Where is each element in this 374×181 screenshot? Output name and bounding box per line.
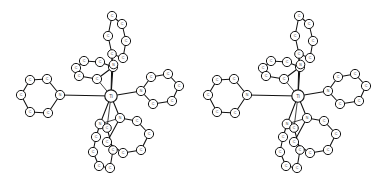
atom-circle-C51	[319, 116, 328, 125]
atom-circle-C13	[16, 90, 25, 99]
atom-C45: C	[290, 31, 299, 40]
atom-circle-C63	[94, 161, 103, 170]
molecular-structure-figure: TiNCCCCCNCCCCCNCCCCCNCCCCCCNCCCCCNCCCCCC…	[0, 0, 374, 181]
atom-circle-C64	[105, 163, 114, 172]
atom-circle-C53	[136, 145, 145, 154]
atom-N1: N	[55, 90, 64, 99]
atom-circle-C45	[290, 31, 299, 40]
atom-C25: C	[335, 99, 344, 108]
atom-circle-N1	[55, 90, 64, 99]
atom-N5: N	[302, 113, 311, 122]
atom-M: Ti	[292, 90, 304, 102]
atom-circle-N1	[242, 90, 251, 99]
atom-C42: C	[308, 36, 317, 45]
atom-N4: N	[296, 60, 305, 69]
atom-circle-C42	[308, 36, 317, 45]
atom-circle-C25	[148, 99, 157, 108]
atom-circle-C55	[102, 137, 111, 146]
atom-circle-C24	[354, 96, 363, 105]
atom-C65: C	[296, 146, 305, 155]
atom-C21: C	[146, 72, 155, 81]
atom-C44: C	[294, 11, 303, 20]
atom-C65: C	[109, 146, 118, 155]
atom-C62: C	[88, 147, 97, 156]
atom-C64: C	[292, 163, 301, 172]
atom-circle-C14	[25, 107, 34, 116]
atom-C55: C	[102, 137, 111, 146]
atom-C24: C	[167, 96, 176, 105]
atom-C41: C	[305, 53, 314, 62]
atom-C21: C	[333, 72, 342, 81]
atom-circle-C65	[109, 146, 118, 155]
atom-C31: C	[282, 57, 291, 66]
atom-C44: C	[107, 11, 116, 20]
atom-circle-C35	[279, 74, 288, 83]
atom-circle-M	[292, 90, 304, 102]
atom-circle-C32	[266, 56, 275, 65]
atom-circle-C25	[335, 99, 344, 108]
atom-C35: C	[92, 74, 101, 83]
atom-circle-N2	[136, 86, 145, 95]
atom-circle-C55	[289, 137, 298, 146]
atom-circle-C22	[350, 69, 359, 78]
atom-circle-C44	[107, 11, 116, 20]
atom-circle-C21	[333, 72, 342, 81]
atom-C15: C	[43, 108, 52, 117]
atom-circle-C43	[304, 19, 313, 28]
atom-circle-C12	[25, 75, 34, 84]
atom-C66: C	[290, 124, 299, 133]
atom-C41: C	[118, 53, 127, 62]
atom-circle-C61	[91, 132, 100, 141]
atom-C46: C	[108, 50, 117, 59]
atom-C66: C	[103, 124, 112, 133]
atom-circle-C54	[305, 148, 314, 157]
atom-circle-C46	[108, 50, 117, 59]
atom-C52: C	[331, 129, 340, 138]
atom-C62: C	[275, 147, 284, 156]
atom-C55: C	[289, 137, 298, 146]
atom-circle-C64	[292, 163, 301, 172]
atom-circle-C21	[146, 72, 155, 81]
atom-circle-C45	[103, 31, 112, 40]
atom-C32: C	[79, 56, 88, 65]
atom-circle-C53	[323, 145, 332, 154]
atom-circle-C66	[290, 124, 299, 133]
atom-circle-C63	[281, 161, 290, 170]
atom-C51: C	[319, 116, 328, 125]
atom-circle-C62	[88, 147, 97, 156]
atom-circle-C15	[230, 108, 239, 117]
atom-C25: C	[148, 99, 157, 108]
atom-circle-C11	[42, 74, 51, 83]
atom-circle-C22	[163, 69, 172, 78]
atom-C34: C	[261, 71, 270, 80]
atom-C13: C	[203, 90, 212, 99]
atom-circle-N5	[115, 113, 124, 122]
atom-C63: C	[94, 161, 103, 170]
atom-N5: N	[115, 113, 124, 122]
atom-circle-N4	[109, 60, 118, 69]
atom-N4: N	[109, 60, 118, 69]
atom-circle-C12	[212, 75, 221, 84]
atom-C14: C	[25, 107, 34, 116]
atom-circle-N2	[323, 86, 332, 95]
atom-C23: C	[361, 81, 370, 90]
atom-C61: C	[91, 132, 100, 141]
atom-circle-C31	[282, 57, 291, 66]
atom-C51: C	[132, 116, 141, 125]
atom-circle-C32	[79, 56, 88, 65]
atom-circle-N5	[302, 113, 311, 122]
atom-C63: C	[281, 161, 290, 170]
atom-C35: C	[279, 74, 288, 83]
atom-C15: C	[230, 108, 239, 117]
atom-circle-C43	[117, 19, 126, 28]
atom-circle-C52	[144, 129, 153, 138]
atom-N2: N	[323, 86, 332, 95]
atom-C53: C	[323, 145, 332, 154]
atom-circle-C62	[275, 147, 284, 156]
atom-C12: C	[212, 75, 221, 84]
atom-circle-C11	[229, 74, 238, 83]
atom-circle-C41	[305, 53, 314, 62]
atom-circle-C51	[132, 116, 141, 125]
atom-circle-C42	[121, 36, 130, 45]
atom-circle-C34	[261, 71, 270, 80]
